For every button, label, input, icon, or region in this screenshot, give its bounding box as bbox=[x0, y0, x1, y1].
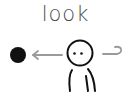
stick-figure-diagram bbox=[0, 0, 131, 103]
eye-left-icon bbox=[73, 52, 76, 55]
back-motion-icon bbox=[103, 47, 121, 54]
stick-figure-icon bbox=[68, 41, 96, 92]
gaze-arrow-icon bbox=[33, 51, 62, 59]
look-diagram: look bbox=[0, 0, 131, 103]
eye-right-icon bbox=[80, 52, 83, 55]
target-dot-icon bbox=[10, 47, 26, 63]
